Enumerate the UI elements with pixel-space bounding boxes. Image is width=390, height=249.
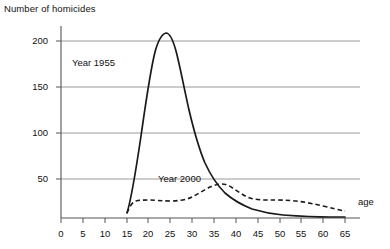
series-line-year-2000 xyxy=(127,184,345,213)
x-tick-label-65: 65 xyxy=(335,228,355,239)
x-tick-label-25: 25 xyxy=(160,228,180,239)
y-tick-label-50: 50 xyxy=(22,173,48,184)
y-axis-ticks xyxy=(56,41,61,179)
x-tick-label-50: 50 xyxy=(270,228,290,239)
homicides-age-chart: Number of homicides xyxy=(0,0,390,249)
y-tick-label-150: 150 xyxy=(22,81,48,92)
chart-plot-area xyxy=(0,0,390,249)
x-tick-label-0: 0 xyxy=(51,228,71,239)
x-axis-ticks xyxy=(61,218,345,223)
y-tick-label-100: 100 xyxy=(22,127,48,138)
y-tick-label-200: 200 xyxy=(22,35,48,46)
axis-lines xyxy=(61,26,360,218)
x-tick-label-40: 40 xyxy=(226,228,246,239)
x-tick-label-55: 55 xyxy=(291,228,311,239)
x-tick-label-45: 45 xyxy=(248,228,268,239)
series-annotation-year-2000: Year 2000 xyxy=(158,173,201,184)
x-tick-label-30: 30 xyxy=(182,228,202,239)
x-tick-label-10: 10 xyxy=(95,228,115,239)
x-tick-label-15: 15 xyxy=(117,228,137,239)
x-tick-label-5: 5 xyxy=(73,228,93,239)
chart-x-axis-title: age xyxy=(358,196,374,207)
x-tick-label-35: 35 xyxy=(204,228,224,239)
series-annotation-year-1955: Year 1955 xyxy=(72,57,115,68)
x-tick-label-20: 20 xyxy=(138,228,158,239)
x-tick-label-60: 60 xyxy=(313,228,333,239)
